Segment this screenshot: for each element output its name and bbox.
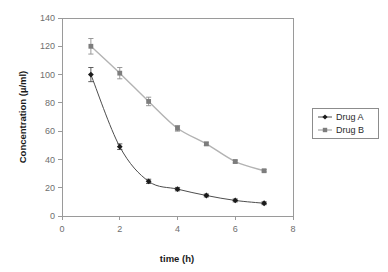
x-tick-label: 8 <box>290 224 295 234</box>
y-tick-label: 120 <box>40 41 55 51</box>
x-axis-title: time (h) <box>160 253 194 264</box>
data-point-marker <box>146 99 151 104</box>
y-axis-title: Concentration (µ/ml) <box>17 71 28 164</box>
y-tick-label: 100 <box>40 70 55 80</box>
data-point-marker <box>233 159 238 164</box>
y-tick-label: 0 <box>50 211 55 221</box>
y-tick-label: 20 <box>45 183 55 193</box>
y-tick-label: 60 <box>45 126 55 136</box>
concentration-vs-time-line-chart: 020406080100120140 02468 time (h) Concen… <box>0 0 388 272</box>
data-point-marker <box>88 44 93 49</box>
legend-label-drug-a: Drug A <box>336 112 364 122</box>
data-point-marker <box>175 126 180 131</box>
legend-label-drug-b: Drug B <box>336 125 364 135</box>
x-tick-label: 4 <box>175 224 180 234</box>
x-tick-label: 6 <box>233 224 238 234</box>
chart-legend: Drug ADrug B <box>312 108 378 138</box>
data-point-marker <box>262 168 267 173</box>
y-tick-label: 140 <box>40 13 55 23</box>
x-tick-label: 2 <box>117 224 122 234</box>
y-tick-label: 40 <box>45 155 55 165</box>
data-point-marker <box>204 141 209 146</box>
chart-figure: 020406080100120140 02468 time (h) Concen… <box>0 0 388 272</box>
x-tick-label: 0 <box>59 224 64 234</box>
y-tick-label: 80 <box>45 98 55 108</box>
legend-marker-square <box>323 128 327 132</box>
data-point-marker <box>117 71 122 76</box>
